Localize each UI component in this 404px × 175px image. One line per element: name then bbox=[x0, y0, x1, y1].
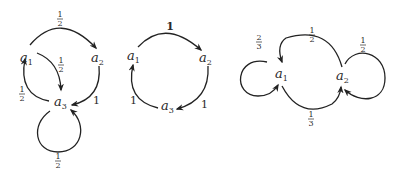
svg-text:1: 1 bbox=[360, 36, 365, 45]
edge-a1-a3 bbox=[37, 53, 61, 90]
svg-text:1: 1 bbox=[57, 10, 62, 19]
label-a1-a3: 1 2 bbox=[58, 56, 64, 74]
node-a2: a2 bbox=[91, 50, 104, 67]
edge-a1-a2 bbox=[282, 86, 341, 109]
label-a1-self-loop: 2 3 bbox=[256, 33, 262, 51]
label-a1-a2: 1 2 bbox=[57, 10, 63, 28]
graph-1: a1 a2 a3 1 2 1 2 1 1 2 1 2 bbox=[19, 10, 104, 170]
svg-text:2: 2 bbox=[19, 94, 24, 103]
diagram-canvas: a1 a2 a3 1 2 1 2 1 1 2 1 2 a1 a2 bbox=[0, 0, 404, 175]
edge-a1-self-loop bbox=[241, 61, 278, 96]
edge-a3-self-loop bbox=[38, 110, 81, 152]
node-a1: a1 bbox=[275, 66, 288, 83]
label-a2-self-loop: 1 2 bbox=[360, 36, 366, 54]
node-a2: a2 bbox=[336, 68, 349, 85]
label-a3-a1: 1 bbox=[130, 94, 137, 107]
graph-3: a1 a2 2 3 1 2 1 3 1 2 bbox=[241, 26, 385, 128]
svg-text:1: 1 bbox=[55, 152, 60, 161]
svg-text:2: 2 bbox=[58, 65, 63, 74]
label-a1-a2: 1 bbox=[166, 20, 174, 33]
svg-text:2: 2 bbox=[57, 19, 62, 28]
node-a3: a3 bbox=[161, 98, 174, 115]
node-a1: a1 bbox=[20, 50, 33, 67]
label-a1-a2: 1 3 bbox=[308, 110, 314, 128]
edge-a1-a2 bbox=[138, 33, 201, 50]
edge-a1-a2 bbox=[30, 28, 96, 48]
label-a2-a1: 1 2 bbox=[309, 26, 315, 44]
node-a3: a3 bbox=[54, 94, 67, 111]
svg-text:2: 2 bbox=[256, 33, 261, 42]
node-a1: a1 bbox=[127, 48, 140, 65]
svg-text:2: 2 bbox=[55, 161, 60, 170]
svg-text:1: 1 bbox=[19, 85, 24, 94]
label-a3-a1: 1 2 bbox=[19, 85, 25, 103]
svg-text:3: 3 bbox=[256, 42, 261, 51]
svg-text:3: 3 bbox=[308, 119, 313, 128]
graph-2: a1 a2 a3 1 1 1 bbox=[127, 20, 212, 115]
svg-text:2: 2 bbox=[360, 45, 365, 54]
svg-text:1: 1 bbox=[309, 26, 314, 35]
svg-text:2: 2 bbox=[309, 35, 314, 44]
label-a2-a3: 1 bbox=[201, 98, 208, 111]
label-a2-a3: 1 bbox=[93, 94, 100, 107]
label-a3-self-loop: 1 2 bbox=[55, 152, 61, 170]
svg-text:1: 1 bbox=[308, 110, 313, 119]
svg-text:1: 1 bbox=[58, 56, 63, 65]
node-a2: a2 bbox=[199, 50, 212, 67]
edge-a2-self-loop bbox=[345, 53, 385, 99]
